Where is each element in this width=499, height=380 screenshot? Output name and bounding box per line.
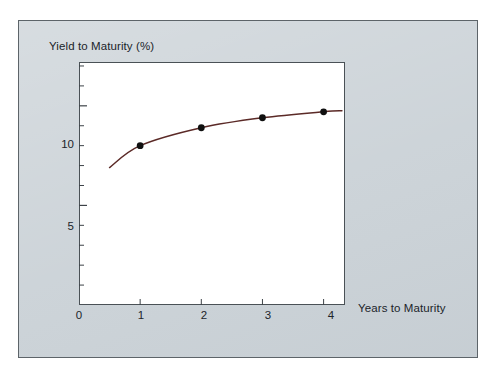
x-tick-label-2: 2: [194, 309, 214, 321]
x-tick-label-0: 0: [69, 309, 89, 321]
y-tick-label-10: 10: [52, 138, 74, 150]
plot-area: [79, 62, 345, 305]
figure-canvas: Yield to Maturity (%) Years to Maturity …: [0, 0, 499, 380]
y-tick-label-5: 5: [52, 220, 74, 232]
x-axis-title: Years to Maturity: [358, 302, 446, 314]
x-tick-label-4: 4: [321, 309, 341, 321]
y-axis-title: Yield to Maturity (%): [49, 40, 154, 52]
x-tick-label-3: 3: [258, 309, 278, 321]
x-tick-label-1: 1: [131, 309, 151, 321]
